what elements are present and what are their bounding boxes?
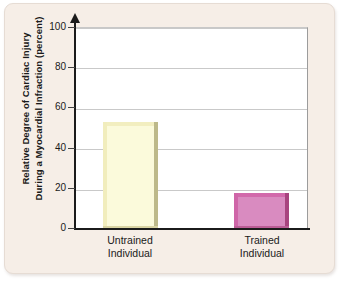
- x-axis-label-trained: Trained Individual: [202, 234, 322, 260]
- bar-untrained-individual: [103, 122, 158, 229]
- plot-area: [76, 27, 308, 229]
- bar-face: [234, 193, 289, 229]
- y-tick-label-0: 0: [26, 223, 66, 233]
- x-axis-label-trained-line-1: Trained: [202, 234, 322, 247]
- gridline-80: [76, 68, 307, 69]
- x-axis-line: [74, 228, 310, 230]
- gridline-60: [76, 109, 307, 110]
- x-axis-label-trained-line-2: Individual: [202, 247, 322, 260]
- bar-face: [103, 122, 158, 229]
- bar-top-highlight: [234, 193, 289, 197]
- y-tick-label-100: 100: [26, 22, 66, 32]
- y-tick-mark-20: [68, 188, 75, 189]
- bar-left-highlight: [234, 193, 238, 229]
- bar-top-highlight: [103, 122, 158, 126]
- y-axis-line: [74, 21, 76, 230]
- y-tick-label-20: 20: [26, 183, 66, 193]
- chart-figure: Relative Degree of Cardiac Injury During…: [0, 0, 343, 284]
- bar-right-shadow: [154, 122, 158, 229]
- x-axis-label-untrained-line-1: Untrained: [70, 234, 190, 247]
- bar-trained-individual: [234, 193, 289, 229]
- y-tick-mark-40: [68, 148, 75, 149]
- y-axis-arrow-icon: [70, 13, 80, 23]
- y-tick-label-40: 40: [26, 143, 66, 153]
- bar-left-highlight: [103, 122, 107, 229]
- y-tick-mark-80: [68, 67, 75, 68]
- gridline-100: [76, 28, 307, 29]
- y-tick-label-60: 60: [26, 102, 66, 112]
- y-tick-mark-100: [68, 27, 75, 28]
- x-axis-label-untrained-line-2: Individual: [70, 247, 190, 260]
- x-axis-label-untrained: Untrained Individual: [70, 234, 190, 260]
- bar-right-shadow: [285, 193, 289, 229]
- y-tick-label-80: 80: [26, 62, 66, 72]
- y-tick-mark-60: [68, 107, 75, 108]
- y-tick-mark-0: [68, 228, 75, 229]
